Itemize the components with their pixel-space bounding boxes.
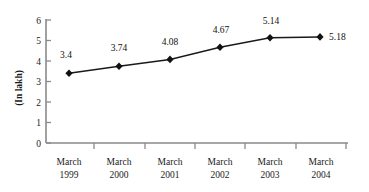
data-label-3: 4.67	[213, 25, 230, 35]
x-tick-label-0-line1: March	[57, 157, 82, 167]
y-tick-label-2: 2	[36, 98, 41, 108]
data-point-1	[115, 63, 122, 71]
x-tick-label-3-line2: 2002	[211, 170, 230, 180]
x-tick-label-5-line1: March	[309, 157, 334, 167]
x-tick-label-0-line2: 1999	[60, 170, 79, 180]
data-label-0: 3.4	[60, 50, 72, 60]
x-tick-label-2-line2: 2001	[161, 170, 180, 180]
x-tick-label-3-line1: March	[208, 157, 233, 167]
series-line	[69, 37, 320, 73]
x-tick-label-5-line2: 2004	[312, 170, 331, 180]
x-tick-label-1: March 2000	[107, 157, 132, 180]
x-tick-label-2-line1: March	[158, 157, 183, 167]
data-point-3	[216, 44, 223, 52]
x-tick-label-1-line1: March	[107, 157, 132, 167]
data-point-0	[65, 70, 72, 78]
y-axis-title: (In lakh)	[14, 70, 25, 106]
y-tick-label-5: 5	[36, 36, 41, 46]
data-point-2	[166, 56, 173, 64]
x-tick-label-0: March 1999	[57, 157, 82, 180]
y-tick-label-3: 3	[36, 77, 41, 87]
y-tick-label-1: 1	[36, 118, 41, 128]
line-chart: 0 1 2 3 4 5 6 (In lakh) March 1999 March…	[0, 0, 369, 192]
x-tick-label-4-line2: 2003	[261, 170, 280, 180]
x-axis-ticks	[94, 143, 346, 149]
y-tick-label-6: 6	[36, 16, 41, 26]
data-label-2: 4.08	[162, 37, 179, 47]
data-label-1: 3.74	[111, 43, 128, 53]
data-point-4	[266, 34, 273, 42]
x-tick-label-4-line1: March	[258, 157, 283, 167]
x-tick-label-2: March 2001	[158, 157, 183, 180]
y-tick-label-4: 4	[36, 57, 41, 67]
x-tick-label-1-line2: 2000	[110, 170, 129, 180]
x-tick-label-5: March 2004	[309, 157, 334, 180]
data-label-5: 5.18	[329, 32, 346, 42]
data-point-5	[316, 33, 323, 41]
series-markers	[65, 33, 323, 77]
y-tick-label-0: 0	[36, 139, 41, 149]
data-label-4: 5.14	[263, 16, 280, 26]
x-tick-label-4: March 2003	[258, 157, 283, 180]
x-tick-label-3: March 2002	[208, 157, 233, 180]
chart-canvas: 0 1 2 3 4 5 6 (In lakh) March 1999 March…	[0, 0, 369, 192]
